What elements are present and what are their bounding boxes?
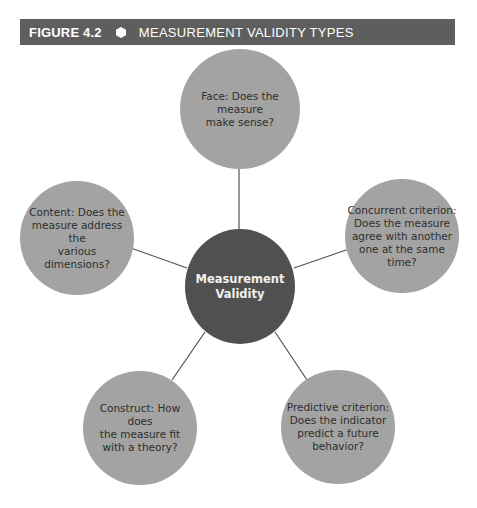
node-construct-label: Construct: How does the measure fit with… [87,402,193,454]
connector-predictive [275,332,307,380]
connector-concurrent [294,248,352,268]
node-face: Face: Does the measure make sense? [180,49,300,169]
node-predictive-label: Predictive criterion: Does the indicator… [287,401,390,453]
connector-construct [172,332,205,380]
node-concurrent: Concurrent criterion: Does the measure a… [345,179,459,293]
connector-content [128,247,187,268]
node-content-label: Content: Does the measure address the va… [24,206,130,271]
node-center: Measurement Validity [185,229,295,344]
node-center-label: Measurement Validity [196,272,285,302]
node-predictive: Predictive criterion: Does the indicator… [281,370,395,484]
node-content: Content: Does the measure address the va… [20,181,134,295]
node-construct: Construct: How does the measure fit with… [83,371,197,485]
node-face-label: Face: Does the measure make sense? [201,90,279,129]
node-concurrent-label: Concurrent criterion: Does the measure a… [347,204,456,269]
